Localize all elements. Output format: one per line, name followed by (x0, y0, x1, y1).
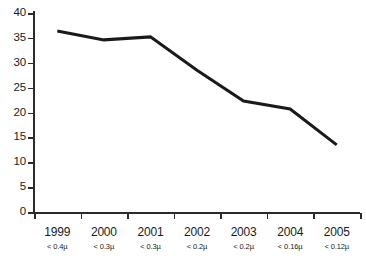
x-category-year: 1999 (34, 225, 81, 239)
x-category-sublabel: < 0.2µ (174, 241, 221, 253)
x-category-year: 2005 (313, 225, 360, 239)
series-polyline (57, 31, 336, 145)
x-category-sublabel: < 0.16µ (267, 241, 314, 253)
x-category-year: 2004 (267, 225, 314, 239)
x-category-sublabel: < 0.2µ (220, 241, 267, 253)
line-chart: 0510152025303540 1999< 0.4µ2000< 0.3µ200… (0, 0, 366, 266)
x-category-2002: 2002< 0.2µ (174, 225, 221, 253)
x-category-sublabel: < 0.3µ (127, 241, 174, 253)
x-category-year: 2001 (127, 225, 174, 239)
x-category-sublabel: < 0.4µ (34, 241, 81, 253)
x-category-2005: 2005< 0.12µ (313, 225, 360, 253)
x-category-year: 2000 (81, 225, 128, 239)
x-category-sublabel: < 0.3µ (81, 241, 128, 253)
x-category-year: 2002 (174, 225, 221, 239)
x-category-2003: 2003< 0.2µ (220, 225, 267, 253)
x-category-2001: 2001< 0.3µ (127, 225, 174, 253)
x-axis-category-labels: 1999< 0.4µ2000< 0.3µ2001< 0.3µ2002< 0.2µ… (34, 225, 360, 253)
x-category-2000: 2000< 0.3µ (81, 225, 128, 253)
x-category-sublabel: < 0.12µ (313, 241, 360, 253)
x-category-2004: 2004< 0.16µ (267, 225, 314, 253)
x-category-year: 2003 (220, 225, 267, 239)
x-category-1999: 1999< 0.4µ (34, 225, 81, 253)
